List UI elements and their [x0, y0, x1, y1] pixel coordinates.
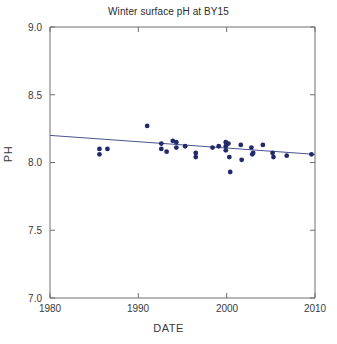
y-axis-title: PH — [2, 134, 14, 174]
data-point-25 — [251, 151, 256, 156]
chart-container: Winter surface pH at BY15 9.0 8.5 8.0 7.… — [0, 0, 337, 344]
axis-frame — [50, 27, 315, 298]
data-point-0 — [97, 147, 102, 152]
data-point-8 — [174, 140, 179, 145]
data-point-27 — [270, 151, 275, 156]
data-point-9 — [174, 145, 179, 150]
plot-area — [0, 0, 337, 344]
y-tick-label-8-5: 8.5 — [12, 90, 42, 101]
trend-line-path — [50, 135, 315, 154]
data-point-29 — [284, 153, 289, 158]
y-tick-label-8-0: 8.0 — [12, 157, 42, 168]
axis-ticks — [50, 27, 315, 298]
trend-line — [50, 135, 315, 154]
data-point-13 — [210, 145, 215, 150]
data-point-28 — [271, 155, 276, 160]
data-point-26 — [260, 142, 265, 147]
x-tick-label-2010: 2010 — [295, 303, 335, 314]
data-point-23 — [249, 145, 254, 150]
data-point-1 — [97, 152, 102, 157]
x-tick-label-1990: 1990 — [118, 303, 158, 314]
data-point-3 — [145, 124, 150, 129]
data-point-4 — [159, 141, 164, 146]
data-point-6 — [164, 149, 169, 154]
data-point-18 — [226, 141, 231, 146]
data-point-30 — [309, 152, 314, 157]
data-point-22 — [239, 157, 244, 162]
data-points — [97, 124, 314, 175]
x-tick-label-1980: 1980 — [30, 303, 70, 314]
data-point-2 — [105, 147, 110, 152]
data-point-10 — [183, 144, 188, 149]
axis-frame-path — [50, 27, 315, 298]
data-point-14 — [216, 144, 221, 149]
data-point-17 — [223, 148, 228, 153]
data-point-20 — [228, 170, 233, 175]
data-point-12 — [193, 155, 198, 160]
y-tick-label-7-5: 7.5 — [12, 225, 42, 236]
x-axis-title: DATE — [0, 322, 337, 334]
data-point-21 — [238, 142, 243, 147]
x-tick-label-2000: 2000 — [207, 303, 247, 314]
y-tick-label-9-0: 9.0 — [12, 22, 42, 33]
data-point-5 — [159, 147, 164, 152]
data-point-19 — [227, 155, 232, 160]
